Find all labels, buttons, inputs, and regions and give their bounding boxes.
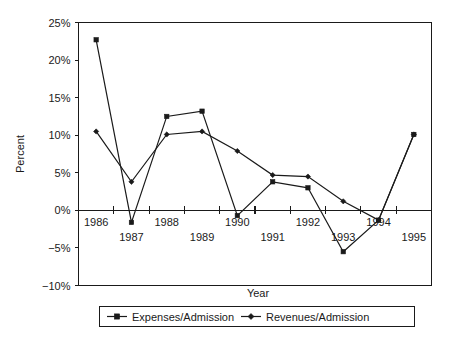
legend-label-expenses: Expenses/Admission bbox=[132, 311, 234, 323]
data-point-marker bbox=[306, 186, 310, 190]
x-tick-label: 1989 bbox=[190, 231, 214, 243]
y-axis-ticks bbox=[75, 23, 79, 286]
data-point-marker bbox=[199, 129, 204, 134]
x-tick-label: 1990 bbox=[225, 216, 249, 228]
x-tick-label: 1992 bbox=[296, 216, 320, 228]
data-point-marker bbox=[114, 314, 119, 319]
y-tick-label: 20% bbox=[48, 54, 70, 66]
x-axis-tick-labels: 1986198719881989199019911992199319941995 bbox=[84, 216, 426, 243]
y-tick-label: 10% bbox=[48, 129, 70, 141]
y-tick-label: 15% bbox=[48, 92, 70, 104]
plot-area-border bbox=[79, 23, 432, 286]
data-point-marker bbox=[341, 249, 345, 253]
y-axis-title: Percent bbox=[14, 135, 26, 173]
line-chart: −10%−5%0%5%10%15%20%25% 1986198719881989… bbox=[0, 0, 451, 337]
data-point-marker bbox=[165, 114, 169, 118]
y-tick-label: 25% bbox=[48, 17, 70, 29]
x-tick-label: 1995 bbox=[402, 231, 426, 243]
y-tick-label: −5% bbox=[48, 242, 71, 254]
y-tick-label: 0% bbox=[55, 204, 71, 216]
data-point-marker bbox=[200, 109, 204, 113]
y-tick-label: 5% bbox=[55, 167, 71, 179]
x-tick-label: 1991 bbox=[260, 231, 284, 243]
chart-legend: Expenses/Admission Revenues/Admission bbox=[100, 307, 415, 327]
data-point-marker bbox=[94, 38, 98, 42]
legend-label-revenues: Revenues/Admission bbox=[266, 311, 369, 323]
y-tick-label: −10% bbox=[42, 280, 71, 292]
x-axis-title: Year bbox=[247, 287, 270, 299]
data-point-marker bbox=[129, 220, 133, 224]
data-point-marker bbox=[235, 213, 239, 217]
x-tick-label: 1986 bbox=[84, 216, 108, 228]
x-tick-label: 1988 bbox=[155, 216, 179, 228]
chart-figure: −10%−5%0%5%10%15%20%25% 1986198719881989… bbox=[0, 0, 451, 337]
y-axis-tick-labels: −10%−5%0%5%10%15%20%25% bbox=[42, 17, 71, 292]
x-tick-label: 1987 bbox=[119, 231, 143, 243]
data-point-marker bbox=[270, 180, 274, 184]
